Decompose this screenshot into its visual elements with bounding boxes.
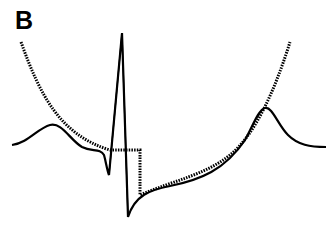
ecg-waveform — [12, 33, 326, 217]
envelope-curve — [21, 42, 290, 195]
ecg-diagram — [0, 0, 336, 230]
